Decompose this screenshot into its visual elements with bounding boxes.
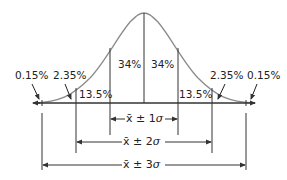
range-prefix: x̄ ± 2 [123,135,153,148]
sigma-symbol: σ [153,158,161,171]
label-right-1to2: 13.5% [179,89,212,100]
range-three-sigma: x̄ ± 3σ [122,159,161,170]
label-left-1to2: 13.5% [79,89,112,100]
label-right-0to1: 34% [151,59,174,70]
range-one-sigma: x̄ ± 1σ [125,113,164,124]
diagram-graphics [0,0,287,180]
label-left-2to3: 2.35% [53,70,86,81]
label-right-tail: 0.15% [247,70,280,81]
range-prefix: x̄ ± 1 [126,112,156,125]
label-left-0to1: 34% [118,59,141,70]
sigma-symbol: σ [153,135,161,148]
sigma-symbol: σ [156,112,164,125]
label-right-2to3: 2.35% [210,70,243,81]
label-left-tail: 0.15% [15,70,48,81]
normal-distribution-diagram: 0.15% 2.35% 13.5% 34% 34% 13.5% 2.35% 0.… [0,0,287,180]
range-two-sigma: x̄ ± 2σ [122,136,161,147]
range-prefix: x̄ ± 3 [123,158,153,171]
